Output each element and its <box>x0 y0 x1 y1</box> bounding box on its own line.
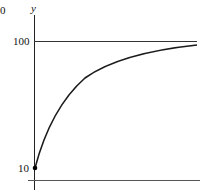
y-axis-label: y <box>30 2 36 14</box>
growth-curve <box>35 45 197 168</box>
y-tick-10: 10 <box>18 162 30 174</box>
initial-point <box>33 166 38 171</box>
y-tick-100: 100 <box>13 35 30 47</box>
chart: 0 y 100 10 <box>0 0 203 190</box>
corner-label: 0 <box>0 4 6 16</box>
